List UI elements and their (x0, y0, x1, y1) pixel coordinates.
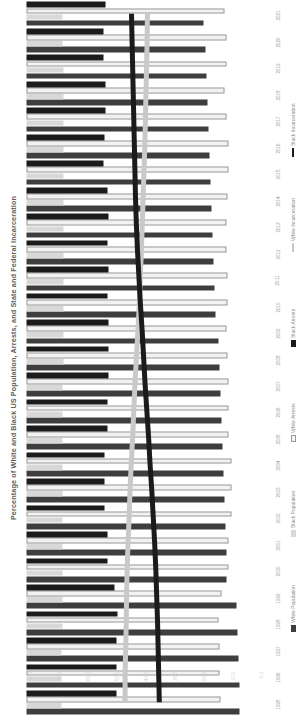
legend-swatch-icon (292, 243, 294, 252)
value-tick-label: 20.0 (202, 672, 207, 681)
value-axis: 80.070.060.050.040.030.020.010.00.0 (26, 672, 258, 702)
legend-label: White Population (290, 585, 296, 623)
chart-legend: White PopulationBlack PopulationWhite Ar… (279, 0, 302, 715)
legend-swatch-icon (291, 530, 296, 537)
legend-swatch-icon (291, 340, 296, 347)
value-tick-label: 80.0 (28, 672, 33, 681)
legend-label: Black Arrests (290, 309, 296, 338)
value-tick-label: 60.0 (86, 672, 91, 681)
plot-rotation-wrapper (26, 0, 258, 715)
value-tick-label: 40.0 (144, 672, 149, 681)
value-tick-label: 10.0 (231, 672, 236, 681)
legend-label: White Arrests (290, 403, 296, 433)
category-axis: 1995199619971998199920002001200220032004… (258, 0, 280, 715)
legend-swatch-icon (291, 625, 296, 632)
legend-swatch-icon (292, 148, 294, 157)
legend-swatch-icon (291, 435, 296, 442)
value-tick-label: 70.0 (57, 672, 62, 681)
chart-canvas: Percentage of White and Black US Populat… (0, 0, 302, 715)
plot-area (26, 0, 258, 715)
page-title: Percentage of White and Black US Populat… (9, 195, 18, 519)
legend-label: White Incarceration (290, 198, 296, 241)
legend-label: Black Incarceration (290, 103, 296, 146)
value-tick-label: 0.0 (259, 672, 264, 678)
value-tick-label: 30.0 (173, 672, 178, 681)
line-series-layer (26, 0, 258, 715)
value-tick-label: 50.0 (115, 672, 120, 681)
chart-title-container: Percentage of White and Black US Populat… (0, 0, 26, 715)
legend-label: Black Population (290, 491, 296, 528)
